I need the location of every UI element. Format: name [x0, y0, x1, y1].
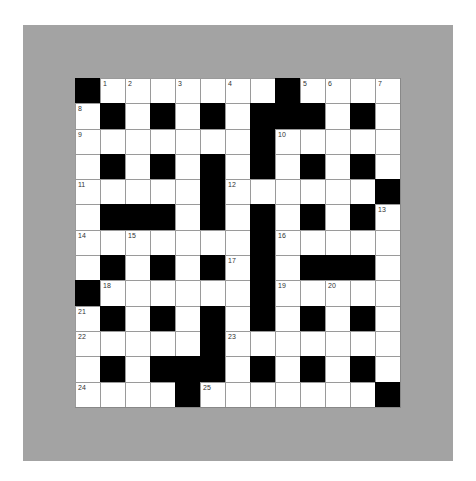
- crossword-cell[interactable]: [100, 331, 125, 356]
- crossword-cell[interactable]: 2: [125, 78, 150, 103]
- crossword-cell[interactable]: [300, 129, 325, 154]
- crossword-cell[interactable]: [225, 230, 250, 255]
- crossword-cell[interactable]: 7: [375, 78, 400, 103]
- crossword-cell[interactable]: [325, 179, 350, 204]
- crossword-cell[interactable]: 15: [125, 230, 150, 255]
- crossword-cell[interactable]: 11: [75, 179, 100, 204]
- crossword-cell[interactable]: 19: [275, 280, 300, 305]
- crossword-cell[interactable]: [325, 382, 350, 407]
- crossword-cell[interactable]: 20: [325, 280, 350, 305]
- crossword-cell[interactable]: [125, 331, 150, 356]
- crossword-cell[interactable]: [150, 280, 175, 305]
- crossword-cell[interactable]: [225, 306, 250, 331]
- crossword-cell[interactable]: [225, 356, 250, 381]
- crossword-cell[interactable]: [125, 129, 150, 154]
- crossword-cell[interactable]: [325, 356, 350, 381]
- crossword-cell[interactable]: [125, 382, 150, 407]
- crossword-cell[interactable]: [175, 255, 200, 280]
- crossword-cell[interactable]: [125, 255, 150, 280]
- crossword-cell[interactable]: 1: [100, 78, 125, 103]
- crossword-cell[interactable]: [250, 179, 275, 204]
- crossword-cell[interactable]: 23: [225, 331, 250, 356]
- crossword-cell[interactable]: 22: [75, 331, 100, 356]
- crossword-cell[interactable]: [350, 230, 375, 255]
- crossword-cell[interactable]: [100, 129, 125, 154]
- crossword-cell[interactable]: [175, 306, 200, 331]
- crossword-cell[interactable]: [325, 129, 350, 154]
- crossword-cell[interactable]: [125, 179, 150, 204]
- crossword-cell[interactable]: [350, 280, 375, 305]
- crossword-cell[interactable]: [300, 179, 325, 204]
- crossword-cell[interactable]: 8: [75, 103, 100, 128]
- crossword-cell[interactable]: [275, 331, 300, 356]
- crossword-cell[interactable]: [375, 280, 400, 305]
- crossword-cell[interactable]: [325, 204, 350, 229]
- crossword-cell[interactable]: [200, 129, 225, 154]
- crossword-cell[interactable]: [175, 179, 200, 204]
- crossword-cell[interactable]: [125, 356, 150, 381]
- crossword-cell[interactable]: [275, 356, 300, 381]
- crossword-cell[interactable]: [350, 179, 375, 204]
- crossword-cell[interactable]: [200, 280, 225, 305]
- crossword-cell[interactable]: [175, 103, 200, 128]
- crossword-cell[interactable]: [250, 78, 275, 103]
- crossword-cell[interactable]: [275, 154, 300, 179]
- crossword-cell[interactable]: [100, 230, 125, 255]
- crossword-cell[interactable]: [225, 382, 250, 407]
- crossword-cell[interactable]: [100, 382, 125, 407]
- crossword-cell[interactable]: [300, 331, 325, 356]
- crossword-cell[interactable]: [175, 154, 200, 179]
- crossword-cell[interactable]: [75, 255, 100, 280]
- crossword-cell[interactable]: [325, 306, 350, 331]
- crossword-cell[interactable]: [375, 255, 400, 280]
- crossword-cell[interactable]: [150, 331, 175, 356]
- crossword-cell[interactable]: [75, 154, 100, 179]
- crossword-cell[interactable]: [375, 129, 400, 154]
- crossword-cell[interactable]: [375, 103, 400, 128]
- crossword-cell[interactable]: [375, 331, 400, 356]
- crossword-cell[interactable]: [200, 230, 225, 255]
- crossword-cell[interactable]: [275, 255, 300, 280]
- crossword-cell[interactable]: 9: [75, 129, 100, 154]
- crossword-cell[interactable]: [125, 103, 150, 128]
- crossword-cell[interactable]: [375, 230, 400, 255]
- crossword-cell[interactable]: 12: [225, 179, 250, 204]
- crossword-cell[interactable]: [350, 331, 375, 356]
- crossword-cell[interactable]: [175, 129, 200, 154]
- crossword-cell[interactable]: 4: [225, 78, 250, 103]
- crossword-cell[interactable]: 18: [100, 280, 125, 305]
- crossword-cell[interactable]: [225, 280, 250, 305]
- crossword-cell[interactable]: [275, 306, 300, 331]
- crossword-cell[interactable]: [200, 78, 225, 103]
- crossword-cell[interactable]: [225, 129, 250, 154]
- crossword-cell[interactable]: [100, 179, 125, 204]
- crossword-cell[interactable]: [275, 204, 300, 229]
- crossword-cell[interactable]: [325, 103, 350, 128]
- crossword-cell[interactable]: [350, 78, 375, 103]
- crossword-cell[interactable]: [225, 103, 250, 128]
- crossword-cell[interactable]: 5: [300, 78, 325, 103]
- crossword-cell[interactable]: [275, 382, 300, 407]
- crossword-cell[interactable]: [300, 230, 325, 255]
- crossword-cell[interactable]: 24: [75, 382, 100, 407]
- crossword-cell[interactable]: [75, 204, 100, 229]
- crossword-cell[interactable]: 21: [75, 306, 100, 331]
- crossword-cell[interactable]: [150, 230, 175, 255]
- crossword-cell[interactable]: [375, 306, 400, 331]
- crossword-cell[interactable]: [300, 280, 325, 305]
- crossword-cell[interactable]: [250, 331, 275, 356]
- crossword-cell[interactable]: [125, 280, 150, 305]
- crossword-cell[interactable]: 3: [175, 78, 200, 103]
- crossword-cell[interactable]: [325, 154, 350, 179]
- crossword-cell[interactable]: [150, 129, 175, 154]
- crossword-cell[interactable]: [350, 382, 375, 407]
- crossword-cell[interactable]: [250, 382, 275, 407]
- crossword-cell[interactable]: 14: [75, 230, 100, 255]
- crossword-cell[interactable]: [150, 179, 175, 204]
- crossword-cell[interactable]: [175, 331, 200, 356]
- crossword-cell[interactable]: 17: [225, 255, 250, 280]
- crossword-cell[interactable]: [350, 129, 375, 154]
- crossword-cell[interactable]: [75, 356, 100, 381]
- crossword-cell[interactable]: 6: [325, 78, 350, 103]
- crossword-cell[interactable]: [325, 331, 350, 356]
